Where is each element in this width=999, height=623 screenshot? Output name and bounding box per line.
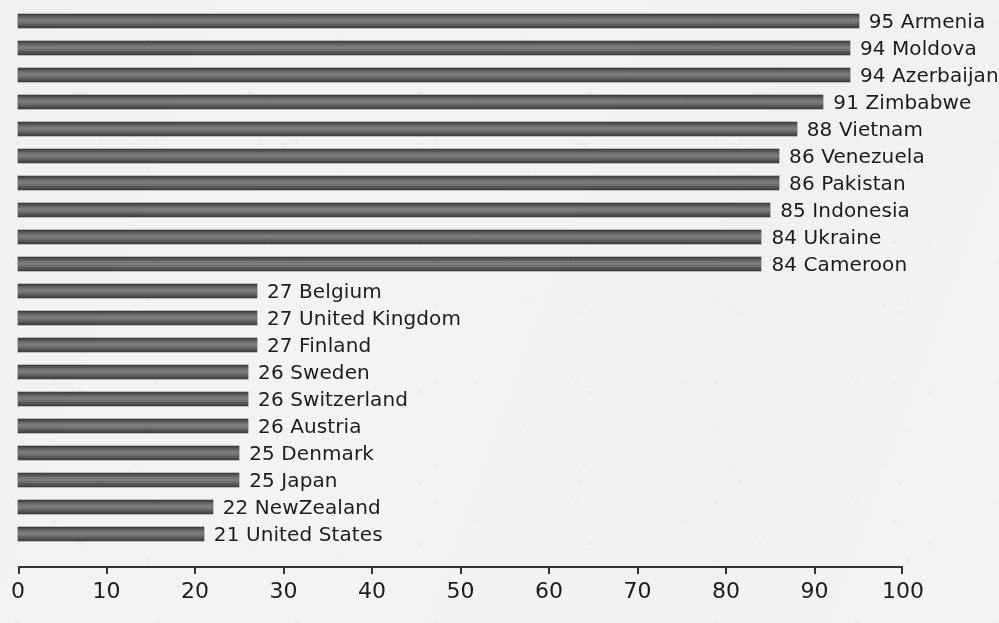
bar-value-label: 27 Belgium <box>267 278 382 305</box>
x-axis-tick <box>548 566 550 574</box>
bar <box>18 284 257 298</box>
x-axis-tick-label: 60 <box>535 578 563 603</box>
bar-value-label: 25 Denmark <box>249 440 374 467</box>
bar <box>18 527 204 541</box>
bar <box>18 419 248 433</box>
bar-value-label: 25 Japan <box>249 467 337 494</box>
x-axis-tick <box>371 566 373 574</box>
x-axis-tick <box>814 566 816 574</box>
bar-row: 27 Belgium <box>0 278 999 305</box>
bar-value-label: 85 Indonesia <box>780 197 910 224</box>
x-axis-tick-label: 70 <box>624 578 652 603</box>
bar-row: 26 Austria <box>0 413 999 440</box>
bar <box>18 311 257 325</box>
bar-value-label: 86 Venezuela <box>789 143 925 170</box>
bar-row: 91 Zimbabwe <box>0 89 999 116</box>
bar-value-label: 84 Cameroon <box>771 251 907 278</box>
bar-row: 85 Indonesia <box>0 197 999 224</box>
bar <box>18 365 248 379</box>
bar-row: 84 Cameroon <box>0 251 999 278</box>
bar <box>18 41 850 55</box>
x-axis-tick-label: 20 <box>181 578 209 603</box>
bar-value-label: 86 Pakistan <box>789 170 906 197</box>
bar <box>18 446 239 460</box>
bar-row: 25 Denmark <box>0 440 999 467</box>
bar-value-label: 26 Austria <box>258 413 361 440</box>
x-axis-tick <box>283 566 285 574</box>
x-axis-tick-label: 30 <box>270 578 298 603</box>
x-axis-tick <box>194 566 196 574</box>
bar <box>18 500 213 514</box>
bar-row: 94 Azerbaijan <box>0 62 999 89</box>
x-axis-tick <box>725 566 727 574</box>
bar-row: 21 United States <box>0 521 999 548</box>
bar-value-label: 22 NewZealand <box>223 494 381 521</box>
bar <box>18 203 770 217</box>
bar <box>18 473 239 487</box>
x-axis-tick <box>106 566 108 574</box>
bar-value-label: 94 Azerbaijan <box>860 62 999 89</box>
x-axis-tick-label: 100 <box>882 578 924 603</box>
x-axis-tick-label: 80 <box>712 578 740 603</box>
bar-row: 26 Switzerland <box>0 386 999 413</box>
bar-value-label: 95 Armenia <box>869 8 986 35</box>
bar-value-label: 21 United States <box>214 521 383 548</box>
x-axis-tick-label: 90 <box>801 578 829 603</box>
bar-row: 94 Moldova <box>0 35 999 62</box>
bar-row: 86 Pakistan <box>0 170 999 197</box>
bar <box>18 230 761 244</box>
bar-row: 27 United Kingdom <box>0 305 999 332</box>
x-axis: 0102030405060708090100 <box>0 558 999 618</box>
x-axis-tick-label: 10 <box>93 578 121 603</box>
bar <box>18 122 797 136</box>
bar <box>18 338 257 352</box>
x-axis-tick-label: 0 <box>11 578 25 603</box>
bar-chart: 95 Armenia94 Moldova94 Azerbaijan91 Zimb… <box>0 0 999 623</box>
x-axis-tick-label: 50 <box>447 578 475 603</box>
bar <box>18 392 248 406</box>
bar-value-label: 88 Vietnam <box>807 116 923 143</box>
plot-area: 95 Armenia94 Moldova94 Azerbaijan91 Zimb… <box>0 8 999 558</box>
bar-value-label: 27 Finland <box>267 332 371 359</box>
bar <box>18 149 779 163</box>
x-axis-tick <box>637 566 639 574</box>
bar <box>18 68 850 82</box>
bar-value-label: 27 United Kingdom <box>267 305 461 332</box>
bar-row: 86 Venezuela <box>0 143 999 170</box>
bar-row: 26 Sweden <box>0 359 999 386</box>
bar <box>18 95 823 109</box>
bar <box>18 14 859 28</box>
bar-row: 27 Finland <box>0 332 999 359</box>
bar-value-label: 26 Switzerland <box>258 386 408 413</box>
bar-value-label: 26 Sweden <box>258 359 370 386</box>
x-axis-tick <box>460 566 462 574</box>
bar-row: 84 Ukraine <box>0 224 999 251</box>
x-axis-tick-label: 40 <box>358 578 386 603</box>
bar <box>18 257 761 271</box>
bar-row: 25 Japan <box>0 467 999 494</box>
bar-row: 95 Armenia <box>0 8 999 35</box>
bar-row: 88 Vietnam <box>0 116 999 143</box>
bar-value-label: 84 Ukraine <box>771 224 881 251</box>
bar <box>18 176 779 190</box>
bar-value-label: 94 Moldova <box>860 35 977 62</box>
bar-row: 22 NewZealand <box>0 494 999 521</box>
bar-value-label: 91 Zimbabwe <box>833 89 971 116</box>
